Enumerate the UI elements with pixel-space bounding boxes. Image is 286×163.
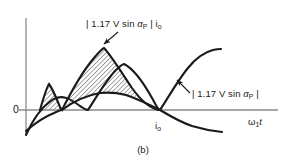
x-axis-label-tail: t	[259, 116, 262, 127]
figure-container: | 1.17 V sin αP | io | 1.17 V sin αP | 0…	[0, 0, 286, 163]
curve-label-io-sub: o	[157, 125, 161, 132]
callout-label-right: | 1.17 V sin αP |	[192, 89, 259, 101]
callout-upper-io-sub: o	[158, 23, 162, 30]
figure-caption: (b)	[0, 144, 286, 155]
leader-arrow-upper-callout	[104, 32, 118, 44]
axis-origin-label: 0	[13, 104, 19, 115]
leader-arrow-right-callout	[177, 80, 190, 93]
callout-upper-prefix: | 1.17 V sin	[86, 18, 137, 29]
curve-label-io: io	[155, 121, 161, 133]
x-axis-label: ω1tω1t	[248, 117, 262, 129]
callout-right-suffix: |	[253, 88, 258, 99]
callout-label-upper: | 1.17 V sin αP | io	[86, 19, 161, 31]
callout-right-prefix: | 1.17 V sin	[192, 88, 243, 99]
callout-upper-mid: | i	[147, 18, 157, 29]
